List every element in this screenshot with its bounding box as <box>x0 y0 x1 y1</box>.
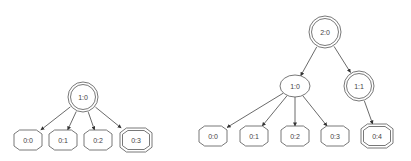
node-1-0: 1:0 <box>280 75 310 97</box>
node-label: 0:3 <box>131 137 141 144</box>
edge-1:1-to-0:4 <box>364 101 372 124</box>
node-0-2: 0:2 <box>84 130 112 150</box>
node-label: 0:2 <box>93 137 103 144</box>
node-1-1: 1:1 <box>344 71 374 101</box>
node-1-0: 1:0 <box>68 82 98 112</box>
node-0-0: 0:0 <box>199 126 227 146</box>
edge-1:0-to-0:3 <box>303 95 327 126</box>
node-label: 1:0 <box>78 94 88 101</box>
node-label: 1:0 <box>290 83 300 90</box>
node-0-1: 0:1 <box>240 126 268 146</box>
node-2-0: 2:0 <box>309 16 341 48</box>
node-0-2: 0:2 <box>281 126 309 146</box>
node-label: 0:2 <box>290 133 300 140</box>
node-0-3: 0:3 <box>321 126 349 146</box>
edge-1:0-to-0:1 <box>262 95 287 126</box>
node-0-0: 0:0 <box>14 130 42 150</box>
node-label: 0:4 <box>372 133 382 140</box>
edge-1:0-to-0:0 <box>41 107 71 130</box>
node-0-3: 0:3 <box>120 128 152 152</box>
edge-1:0-to-0:3 <box>95 107 121 128</box>
node-label: 0:1 <box>58 137 68 144</box>
edge-2:0-to-1:1 <box>334 46 350 72</box>
node-label: 1:1 <box>354 83 364 90</box>
edge-1:0-to-0:2 <box>88 112 94 130</box>
edge-1:0-to-0:1 <box>68 112 77 130</box>
node-label: 2:0 <box>320 29 330 36</box>
node-label: 0:3 <box>330 133 340 140</box>
nodes: 1:00:00:10:20:32:01:01:10:00:10:20:30:4 <box>14 16 393 152</box>
node-label: 0:0 <box>208 133 218 140</box>
node-label: 0:1 <box>249 133 259 140</box>
edge-2:0-to-1:0 <box>301 47 317 76</box>
tree-diagram: 1:00:00:10:20:32:01:01:10:00:10:20:30:4 <box>0 0 411 161</box>
node-label: 0:0 <box>23 137 33 144</box>
node-0-1: 0:1 <box>49 130 77 150</box>
node-0-4: 0:4 <box>361 124 393 148</box>
